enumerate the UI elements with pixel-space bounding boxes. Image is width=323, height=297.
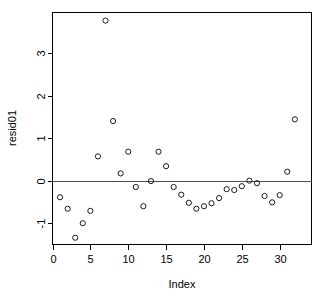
x-tick-label: 15 <box>160 253 172 265</box>
data-point <box>103 18 108 23</box>
data-point <box>262 193 267 198</box>
x-tick-label: 5 <box>87 253 93 265</box>
x-tick-label: 0 <box>50 253 56 265</box>
data-point <box>194 206 199 211</box>
data-point <box>179 192 184 197</box>
plot-canvas: 051015202530 -10123 Index resid01 <box>0 0 323 297</box>
plot-frame <box>53 13 312 245</box>
x-tick-label: 10 <box>122 253 134 265</box>
data-point <box>171 184 176 189</box>
data-point <box>239 184 244 189</box>
data-point <box>285 169 290 174</box>
data-point <box>65 206 70 211</box>
data-point <box>133 184 138 189</box>
data-point <box>95 154 100 159</box>
data-points <box>57 18 297 240</box>
data-point <box>270 200 275 205</box>
data-point <box>110 118 115 123</box>
data-point <box>209 201 214 206</box>
data-point <box>247 178 252 183</box>
y-tick-label: 1 <box>35 135 47 141</box>
x-axis-title: Index <box>169 278 196 290</box>
data-point <box>80 221 85 226</box>
data-point <box>126 149 131 154</box>
data-point <box>224 187 229 192</box>
y-axis-tick-labels: -10123 <box>35 50 47 228</box>
y-axis-ticks <box>48 54 53 224</box>
data-point <box>88 208 93 213</box>
data-point <box>156 149 161 154</box>
data-point <box>232 187 237 192</box>
x-axis-tick-labels: 051015202530 <box>50 253 286 265</box>
data-point <box>141 204 146 209</box>
data-point <box>57 195 62 200</box>
y-tick-label: 3 <box>35 50 47 56</box>
data-point <box>164 164 169 169</box>
data-point <box>186 200 191 205</box>
data-point <box>292 117 297 122</box>
data-point <box>73 235 78 240</box>
y-axis-title: resid01 <box>6 110 18 146</box>
x-axis-ticks <box>54 245 281 250</box>
data-point <box>217 196 222 201</box>
x-tick-label: 30 <box>274 253 286 265</box>
data-point <box>277 193 282 198</box>
x-tick-label: 25 <box>236 253 248 265</box>
y-tick-label: 2 <box>35 93 47 99</box>
x-tick-label: 20 <box>198 253 210 265</box>
residual-scatter-plot: 051015202530 -10123 Index resid01 <box>0 0 323 297</box>
y-tick-label: 0 <box>35 178 47 184</box>
data-point <box>118 171 123 176</box>
data-point <box>201 204 206 209</box>
y-tick-label: -1 <box>35 219 47 229</box>
